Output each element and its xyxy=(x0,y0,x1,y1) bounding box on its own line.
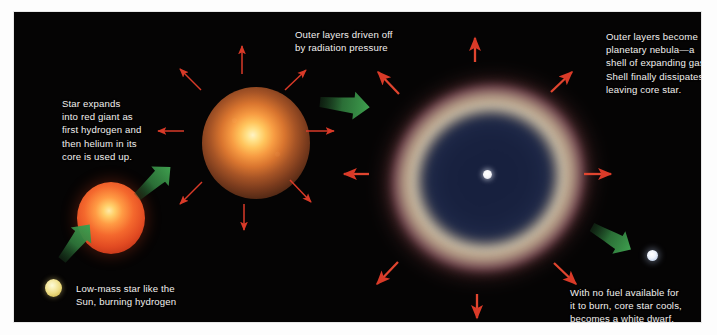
caption-outer-layers-driven-off: Outer layers driven off by radiation pre… xyxy=(295,28,470,54)
caption-red-giant: Star expands into red giant as first hyd… xyxy=(62,97,192,163)
arrow-expanding-to-nebula xyxy=(319,88,372,121)
low-mass-star xyxy=(45,279,62,297)
figure-stage: Star expands into red giant as first hyd… xyxy=(0,0,717,335)
caption-planetary-nebula: Outer layers become planetary nebula—a s… xyxy=(606,30,701,96)
caption-white-dwarf: With no fuel available for it to burn, c… xyxy=(570,286,701,322)
white-dwarf-star xyxy=(647,250,658,261)
caption-low-mass-star: Low-mass star like the Sun, burning hydr… xyxy=(76,282,226,308)
space-canvas: Star expands into red giant as first hyd… xyxy=(14,12,701,322)
expanding-star xyxy=(202,87,310,199)
planetary-nebula xyxy=(369,67,607,289)
nebula-core-star xyxy=(483,170,492,179)
red-giant-star xyxy=(77,182,145,254)
